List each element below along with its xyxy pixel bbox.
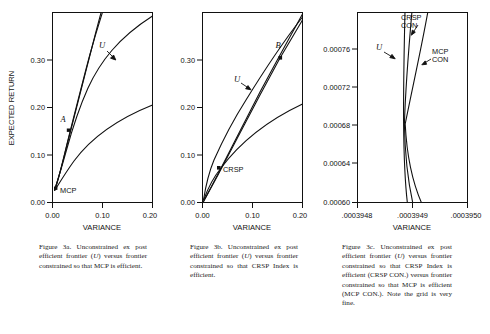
x-ticks-3c: [358, 203, 468, 209]
chart-3c: 0.00060 0.00064 0.00068 0.00072 0.00076 …: [300, 0, 490, 235]
x-axis-title-3c: VARIANCE: [393, 223, 431, 232]
y-ticks-3b: [197, 60, 203, 203]
y-tick-label: 0.00072: [323, 83, 350, 92]
label-curve-crsp-con-3c: CRSP CON: [401, 13, 422, 30]
chart-3a: EXPECTED RETURN 0.00 0.10 0.20 0.30: [0, 0, 165, 235]
y-tick-label: 0.00068: [323, 121, 350, 130]
curve-lower-frontier-3b: [204, 104, 303, 199]
x-tick-label: 0.00: [45, 211, 59, 220]
label-point-a-3a: A: [59, 115, 66, 124]
y-ticks-3c: [352, 49, 358, 203]
x-axis-title-3b: VARIANCE: [233, 223, 271, 232]
caption-label-3c: Figure 3c.: [342, 243, 375, 251]
y-tick-label: 0.20: [181, 103, 195, 112]
marker-point-mcp-3a: [54, 187, 57, 190]
leader-curve-u-3c: [384, 52, 395, 59]
label-point-mcp-3a: MCP: [60, 186, 76, 195]
label-curve-u-3b: U: [234, 74, 241, 84]
leader-curve-u-3b: [241, 83, 251, 90]
y-tick-label: 0.10: [31, 151, 45, 160]
x-tick-label: 0.00: [195, 211, 209, 220]
x-tick-labels-3b: 0.00 0.10 0.20: [195, 211, 307, 220]
figure-3-panels: EXPECTED RETURN 0.00 0.10 0.20 0.30: [0, 0, 490, 334]
caption-label-3b: Figure 3b.: [190, 243, 223, 251]
y-tick-label: 0.30: [181, 56, 195, 65]
caption-text2-3c: ) versus frontier constrained so that CR…: [342, 252, 452, 307]
x-tick-label: .0003949: [397, 211, 428, 220]
x-tick-label: .0003950: [451, 211, 482, 220]
x-tick-label: 0.10: [245, 211, 259, 220]
panel-figure-3b: 0.00 0.10 0.20 0.30 0.00 0.10 0.20 VARIA…: [150, 0, 315, 235]
y-tick-label: 0.00: [181, 198, 195, 207]
x-tick-labels-3a: 0.00 0.10 0.20: [45, 211, 157, 220]
y-tick-labels-3b: 0.00 0.10 0.20 0.30: [181, 56, 195, 208]
y-tick-labels-3c: 0.00060 0.00064 0.00068 0.00072 0.00076: [323, 45, 350, 208]
caption-figure-3c: Figure 3c. Unconstrained ex post efficie…: [342, 243, 452, 309]
x-tick-label: 0.10: [95, 211, 109, 220]
y-tick-label: 0.00060: [323, 198, 350, 207]
marker-point-crsp-3b: [217, 166, 221, 170]
y-tick-label: 0.00064: [323, 159, 350, 168]
label-line: CON: [401, 21, 417, 30]
label-point-b-3b: B: [275, 40, 281, 50]
panel-figure-3c: 0.00060 0.00064 0.00068 0.00072 0.00076 …: [300, 0, 490, 235]
caption-label-3a: Figure 3a.: [39, 243, 71, 251]
x-ticks-3a: [53, 203, 153, 209]
label-curve-mcp-con-3c: MCP CON: [432, 47, 448, 64]
curve-lower-frontier-3a: [55, 105, 153, 190]
y-ticks-3a: [47, 60, 53, 203]
y-tick-label: 0.30: [31, 56, 45, 65]
x-axis-title-3a: VARIANCE: [83, 223, 121, 232]
x-ticks-3b: [203, 203, 303, 209]
x-tick-label: .0003948: [342, 211, 373, 220]
caption-figure-3a: Figure 3a. Unconstrained ex post efficie…: [39, 243, 147, 271]
label-curve-u-3a: U: [99, 40, 106, 50]
label-line: CON: [432, 55, 448, 64]
curve-mcp-con-3c: [405, 11, 428, 204]
x-tick-labels-3c: .0003948 .0003949 .0003950: [342, 211, 482, 220]
caption-figure-3b: Figure 3b. Unconstrained ex post efficie…: [190, 243, 298, 281]
marker-point-b-3b: [279, 56, 283, 60]
y-tick-label: 0.10: [181, 151, 195, 160]
chart-3b: 0.00 0.10 0.20 0.30 0.00 0.10 0.20 VARIA…: [150, 0, 315, 235]
panel-figure-3a: EXPECTED RETURN 0.00 0.10 0.20 0.30: [0, 0, 165, 235]
label-point-crsp-3b: CRSP: [223, 165, 244, 174]
y-tick-labels-3a: 0.00 0.10 0.20 0.30: [31, 56, 45, 208]
leader-curve-mcp-con-3c: [422, 59, 431, 65]
y-axis-title-3a: EXPECTED RETURN: [7, 71, 16, 146]
marker-point-a-3a: [67, 129, 70, 132]
label-curve-u-3c: U: [376, 42, 383, 52]
y-tick-label: 0.20: [31, 103, 45, 112]
y-tick-label: 0.00076: [323, 45, 350, 54]
y-tick-label: 0.00: [31, 198, 45, 207]
